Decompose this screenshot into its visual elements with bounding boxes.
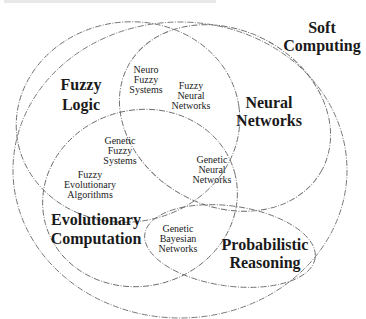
fuzzy-logic-ellipse: [3, 7, 253, 236]
fuzzy-logic-label-1: Fuzzy: [61, 76, 102, 94]
fuzzy-neural-networks-label-3: Networks: [172, 100, 211, 111]
evolutionary-computation-label-2: Computation: [51, 230, 142, 248]
genetic-fuzzy-systems-label-3: Systems: [103, 155, 136, 166]
fuzzy-evolutionary-algorithms-label-3: Algorithms: [67, 189, 113, 200]
soft-computing-label-1: Soft: [308, 19, 336, 36]
neural-networks-label-1: Neural: [245, 94, 293, 111]
evolutionary-computation-ellipse: [23, 88, 258, 309]
probabilistic-reasoning-label-2: Reasoning: [229, 254, 300, 272]
genetic-neural-networks-label-3: Networks: [193, 174, 232, 185]
fuzzy-logic-label-2: Logic: [62, 96, 100, 114]
genetic-bayesian-networks-label-3: Networks: [159, 243, 198, 254]
neural-networks-label-2: Networks: [236, 112, 302, 129]
neuro-fuzzy-systems-label-3: Systems: [129, 84, 162, 95]
cutoff-text-line: [4, 0, 216, 3]
evolutionary-computation-label-1: Evolutionary: [51, 211, 141, 229]
soft-computing-venn-diagram: Soft Computing Fuzzy Logic Neural Networ…: [0, 0, 366, 319]
soft-computing-label-2: Computing: [283, 37, 360, 55]
probabilistic-reasoning-label-1: Probabilistic: [222, 236, 309, 253]
